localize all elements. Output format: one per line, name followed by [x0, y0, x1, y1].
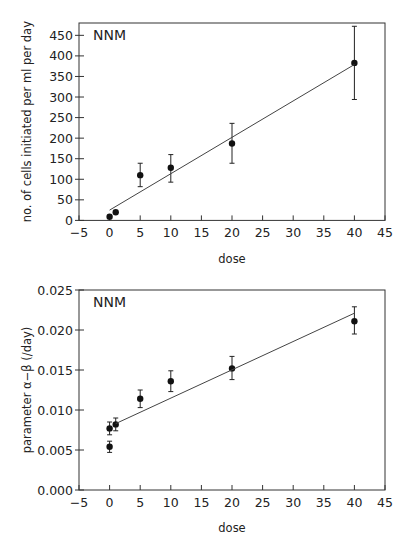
- x-tick-label: 35: [316, 225, 332, 240]
- y-tick-label: 250: [49, 110, 73, 125]
- y-axis-title: parameter α−β (/day): [20, 327, 34, 454]
- x-tick-label: 25: [255, 225, 271, 240]
- y-tick-label: 0: [65, 213, 73, 228]
- data-point: [229, 140, 235, 146]
- data-point: [106, 444, 112, 450]
- data-point: [351, 318, 357, 324]
- x-tick-label: 0: [106, 225, 114, 240]
- data-point: [168, 165, 174, 171]
- x-axis-title: dose: [218, 521, 245, 535]
- x-tick-label: 5: [136, 225, 144, 240]
- data-point: [168, 378, 174, 384]
- y-tick-label: 350: [49, 69, 73, 84]
- data-point: [137, 396, 143, 402]
- x-tick-label: 25: [255, 495, 271, 510]
- panel-label: NNM: [93, 294, 126, 310]
- y-tick-label: 200: [49, 131, 73, 146]
- x-tick-label: 40: [346, 225, 362, 240]
- data-point: [113, 209, 119, 215]
- x-tick-label: 5: [136, 495, 144, 510]
- figure: −505101520253035404505010015020025030035…: [0, 0, 408, 557]
- y-tick-label: 300: [49, 90, 73, 105]
- x-tick-label: 45: [377, 225, 393, 240]
- x-tick-label: 15: [193, 495, 209, 510]
- x-axis-title: dose: [218, 252, 245, 266]
- bottom-chart: −50510152025303540450.0000.0050.0100.015…: [20, 283, 393, 536]
- y-tick-label: 450: [49, 28, 73, 43]
- plot-frame: [79, 23, 385, 220]
- y-tick-label: 0.005: [37, 443, 73, 458]
- y-tick-label: 100: [49, 172, 73, 187]
- y-tick-label: 150: [49, 151, 73, 166]
- data-point: [106, 213, 112, 219]
- fit-line: [110, 65, 355, 211]
- y-tick-label: 50: [57, 192, 73, 207]
- x-tick-label: 15: [193, 225, 209, 240]
- x-tick-label: 30: [285, 495, 301, 510]
- data-point: [137, 172, 143, 178]
- y-tick-label: 0.020: [37, 323, 73, 338]
- data-point: [351, 60, 357, 66]
- y-axis-title: no. of cells initiated per ml per day: [20, 21, 34, 222]
- x-tick-label: 10: [163, 225, 179, 240]
- y-tick-label: 0.015: [37, 363, 73, 378]
- top-chart: −505101520253035404505010015020025030035…: [20, 21, 393, 266]
- data-point: [106, 425, 112, 431]
- x-tick-label: 20: [224, 225, 240, 240]
- fit-line: [116, 313, 355, 423]
- y-tick-label: 400: [49, 48, 73, 63]
- x-tick-label: 20: [224, 495, 240, 510]
- x-tick-label: 40: [346, 495, 362, 510]
- x-tick-label: 0: [106, 495, 114, 510]
- x-tick-label: 10: [163, 495, 179, 510]
- y-tick-label: 0.025: [37, 283, 73, 298]
- x-tick-label: 45: [377, 495, 393, 510]
- panel-label: NNM: [93, 27, 126, 43]
- x-tick-label: 35: [316, 495, 332, 510]
- x-tick-label: 30: [285, 225, 301, 240]
- y-tick-label: 0.000: [37, 483, 73, 498]
- y-tick-label: 0.010: [37, 403, 73, 418]
